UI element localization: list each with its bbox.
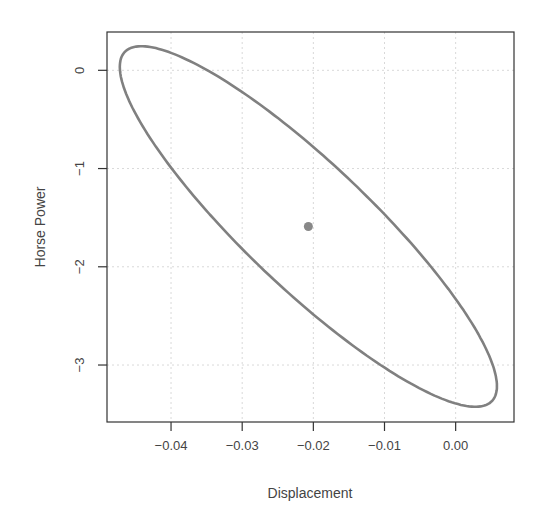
y-tick-label: −3 — [72, 358, 87, 373]
y-tick-label: −2 — [72, 259, 87, 274]
x-axis-ticks: −0.04−0.03−0.02−0.010.00 — [155, 422, 469, 453]
x-tick-label: −0.03 — [226, 438, 259, 453]
x-tick-label: 0.00 — [443, 438, 468, 453]
y-axis-title: Horse Power — [32, 186, 48, 267]
x-tick-label: −0.04 — [155, 438, 188, 453]
y-tick-label: 0 — [72, 67, 87, 74]
x-tick-label: −0.02 — [297, 438, 330, 453]
center-point — [304, 222, 313, 231]
y-axis-ticks: 0−1−2−3 — [72, 67, 107, 373]
chart: −0.04−0.03−0.02−0.010.00 0−1−2−3 Displac… — [0, 0, 545, 523]
x-tick-label: −0.01 — [368, 438, 401, 453]
x-axis-title: Displacement — [268, 485, 353, 501]
y-tick-label: −1 — [72, 161, 87, 176]
